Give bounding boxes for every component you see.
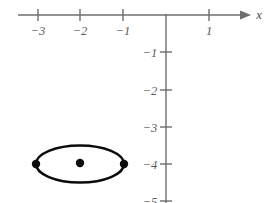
- y-tick-label-minus1: −1: [143, 46, 158, 60]
- point-center: [76, 159, 84, 167]
- y-tick-label-minus4: −4: [143, 158, 158, 172]
- x-tick-label-minus2: −2: [73, 24, 88, 38]
- x-tick-label-minus3: −3: [31, 24, 46, 38]
- x-axis-label: x: [255, 8, 262, 22]
- point-left-vertex: [32, 160, 40, 168]
- point-right-vertex: [120, 160, 128, 168]
- y-tick-label-minus2: −2: [143, 84, 158, 98]
- x-tick-label-minus1: −1: [116, 24, 131, 38]
- y-tick-label-minus3: −3: [143, 121, 158, 135]
- x-axis-arrow-icon: [240, 11, 251, 20]
- figure-canvas: −3 −2 −1 1 −1 −2 −3 −4 −5 x: [0, 0, 278, 203]
- ellipse-graph: −3 −2 −1 1 −1 −2 −3 −4 −5 x: [0, 0, 278, 203]
- x-tick-label-1: 1: [206, 24, 212, 38]
- y-tick-label-minus5: −5: [143, 195, 158, 203]
